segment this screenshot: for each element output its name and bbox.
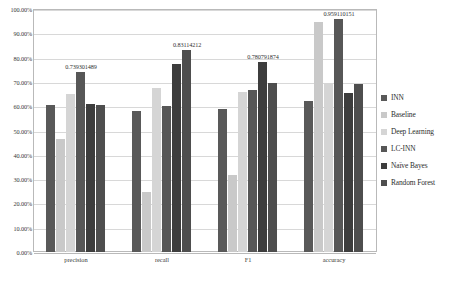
bar [228, 175, 237, 252]
bar [66, 94, 75, 252]
bar-data-label: 0.959110151 [323, 10, 354, 17]
bar [132, 111, 141, 252]
legend-swatch-icon [381, 146, 387, 152]
bar [238, 92, 247, 252]
bar [304, 101, 313, 252]
legend-swatch-icon [381, 129, 387, 135]
legend-item-label: INN [391, 93, 404, 102]
chart-legend: INNBaselineDeep LearningLC-INNNaïve Baye… [381, 89, 453, 191]
y-axis-tick-label: 100.00% [1, 6, 32, 13]
legend-item-label: Naïve Bayes [391, 161, 427, 170]
bar [334, 19, 343, 252]
bar [258, 62, 267, 252]
y-axis-tick-label: 0.00% [1, 249, 32, 256]
bar [268, 83, 277, 252]
legend-swatch-icon [381, 95, 387, 101]
y-axis-tick-label: 10.00% [1, 224, 32, 231]
legend-item[interactable]: Deep Learning [381, 123, 453, 140]
x-axis-tick-label: recall [155, 256, 169, 264]
bar-data-label: 0.739301489 [65, 63, 96, 70]
y-axis-tick-label: 60.00% [1, 103, 32, 110]
legend-item-label: LC-INN [391, 144, 415, 153]
y-axis-tick-label: 80.00% [1, 54, 32, 61]
y-axis-tick-label: 90.00% [1, 30, 32, 37]
bar-data-label: 0.780791874 [247, 53, 278, 60]
x-axis-tick-label: F1 [245, 256, 252, 264]
legend-item-label: Random Forest [391, 178, 435, 187]
bar [96, 105, 105, 252]
x-axis-tick-label: precision [64, 256, 87, 264]
bar [152, 88, 161, 252]
bar-group: 0.780791874 [218, 9, 278, 252]
bars-layer: 0.7393014890.831142120.7807918740.959110… [33, 9, 377, 252]
legend-swatch-icon [381, 180, 387, 186]
x-axis-tick-label: accuracy [323, 256, 346, 264]
bar-group: 0.959110151 [304, 9, 364, 252]
bar [46, 105, 55, 252]
x-axis: precisionrecallF1accuracy [33, 253, 377, 269]
bar [172, 64, 181, 252]
y-axis: 0.00%10.00%20.00%30.00%40.00%50.00%60.00… [0, 9, 32, 252]
bar-group: 0.83114212 [132, 9, 192, 252]
y-axis-tick-label: 50.00% [1, 127, 32, 134]
bar [314, 22, 323, 252]
bar [162, 106, 171, 252]
legend-item[interactable]: Random Forest [381, 174, 453, 191]
legend-item-label: Baseline [391, 110, 416, 119]
legend-swatch-icon [381, 163, 387, 169]
bar-data-label: 0.83114212 [173, 41, 201, 48]
y-axis-tick-label: 20.00% [1, 200, 32, 207]
bar [142, 192, 151, 252]
legend-item-label: Deep Learning [391, 127, 434, 136]
legend-item[interactable]: INN [381, 89, 453, 106]
bar-group: 0.739301489 [46, 9, 106, 252]
bar [76, 72, 85, 252]
bar [218, 109, 227, 252]
bar [86, 104, 95, 252]
bar-chart: 0.00%10.00%20.00%30.00%40.00%50.00%60.00… [0, 0, 453, 281]
y-axis-tick-label: 40.00% [1, 151, 32, 158]
bar [344, 93, 353, 252]
bar [56, 139, 65, 252]
legend-item[interactable]: LC-INN [381, 140, 453, 157]
legend-item[interactable]: Naïve Bayes [381, 157, 453, 174]
legend-item[interactable]: Baseline [381, 106, 453, 123]
y-axis-tick-label: 30.00% [1, 176, 32, 183]
bar [182, 50, 191, 252]
legend-swatch-icon [381, 112, 387, 118]
bar [354, 84, 363, 252]
bar [248, 90, 257, 252]
bar [324, 83, 333, 252]
y-axis-tick-label: 70.00% [1, 78, 32, 85]
